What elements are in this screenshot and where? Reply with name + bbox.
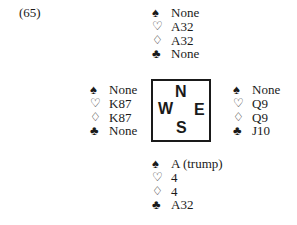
club-icon: ♣ xyxy=(90,124,109,138)
south-hearts: 4 xyxy=(171,171,178,185)
west-diamonds-row: ♢ K87 xyxy=(90,111,137,125)
east-hearts: Q9 xyxy=(252,97,268,111)
south-clubs-row: ♣ A32 xyxy=(152,198,223,212)
heart-icon: ♡ xyxy=(152,171,171,185)
south-diamonds-row: ♢ 4 xyxy=(152,185,223,199)
west-hand: ♠ None ♡ K87 ♢ K87 ♣ None xyxy=(90,83,137,138)
west-spades-row: ♠ None xyxy=(90,83,137,97)
south-hand: ♠ A (trump) ♡ 4 ♢ 4 ♣ A32 xyxy=(152,157,223,212)
north-hearts: A32 xyxy=(171,20,193,34)
compass-east: E xyxy=(194,102,205,118)
east-clubs-row: ♣ J10 xyxy=(233,124,280,138)
south-hearts-row: ♡ 4 xyxy=(152,171,223,185)
north-diamonds-row: ♢ A32 xyxy=(152,34,199,48)
spade-icon: ♠ xyxy=(233,83,252,97)
heart-icon: ♡ xyxy=(233,97,252,111)
west-diamonds: K87 xyxy=(109,111,131,125)
east-spades: None xyxy=(252,83,280,97)
club-icon: ♣ xyxy=(152,47,171,61)
compass-south: S xyxy=(176,120,187,136)
south-spades: A (trump) xyxy=(171,157,223,171)
compass-north: N xyxy=(175,84,187,100)
compass-box: N W E S xyxy=(151,79,211,142)
east-diamonds-row: ♢ Q9 xyxy=(233,111,280,125)
heart-icon: ♡ xyxy=(152,20,171,34)
north-hearts-row: ♡ A32 xyxy=(152,20,199,34)
diamond-icon: ♢ xyxy=(152,34,171,48)
east-spades-row: ♠ None xyxy=(233,83,280,97)
north-diamonds: A32 xyxy=(171,34,193,48)
north-clubs: None xyxy=(171,47,199,61)
east-clubs: J10 xyxy=(252,124,270,138)
south-diamonds: 4 xyxy=(171,185,178,199)
west-clubs: None xyxy=(109,124,137,138)
compass-west: W xyxy=(158,101,173,117)
west-spades: None xyxy=(109,83,137,97)
east-hearts-row: ♡ Q9 xyxy=(233,97,280,111)
club-icon: ♣ xyxy=(152,198,171,212)
diamond-icon: ♢ xyxy=(233,111,252,125)
north-spades-row: ♠ None xyxy=(152,6,199,20)
diamond-icon: ♢ xyxy=(152,185,171,199)
south-spades-row: ♠ A (trump) xyxy=(152,157,223,171)
north-spades: None xyxy=(171,6,199,20)
heart-icon: ♡ xyxy=(90,97,109,111)
diamond-icon: ♢ xyxy=(90,111,109,125)
problem-number: (65) xyxy=(19,5,41,21)
south-clubs: A32 xyxy=(171,198,193,212)
west-clubs-row: ♣ None xyxy=(90,124,137,138)
west-hearts: K87 xyxy=(109,97,131,111)
east-hand: ♠ None ♡ Q9 ♢ Q9 ♣ J10 xyxy=(233,83,280,138)
west-hearts-row: ♡ K87 xyxy=(90,97,137,111)
east-diamonds: Q9 xyxy=(252,111,268,125)
spade-icon: ♠ xyxy=(152,157,171,171)
north-hand: ♠ None ♡ A32 ♢ A32 ♣ None xyxy=(152,6,199,61)
club-icon: ♣ xyxy=(233,124,252,138)
spade-icon: ♠ xyxy=(90,83,109,97)
spade-icon: ♠ xyxy=(152,6,171,20)
north-clubs-row: ♣ None xyxy=(152,47,199,61)
